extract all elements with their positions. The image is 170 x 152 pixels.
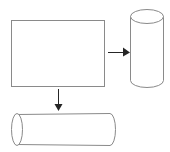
horizontal-cylinder-body [17,114,116,146]
horizontal-cylinder-left-cap [12,114,23,146]
vertical-cylinder-shape [131,10,164,88]
geometry-diagram [0,0,170,152]
arrow-down-head [55,104,63,111]
rectangle-shape [12,21,105,87]
vertical-cylinder-top-cap [131,10,164,24]
rectangle-outline [12,21,105,87]
horizontal-cylinder-shape [12,114,116,146]
arrow-to-horizontal-cylinder [55,89,63,111]
arrow-right-head [123,48,130,57]
vertical-cylinder-body [131,17,164,88]
arrow-to-vertical-cylinder [108,48,130,57]
